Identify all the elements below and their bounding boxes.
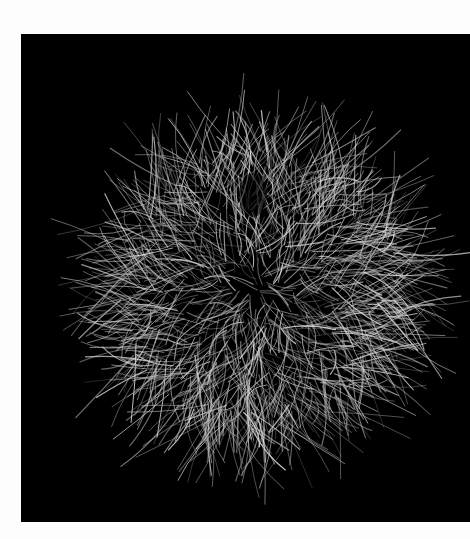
photograph — [21, 34, 470, 522]
hair-ball-image — [21, 34, 470, 522]
